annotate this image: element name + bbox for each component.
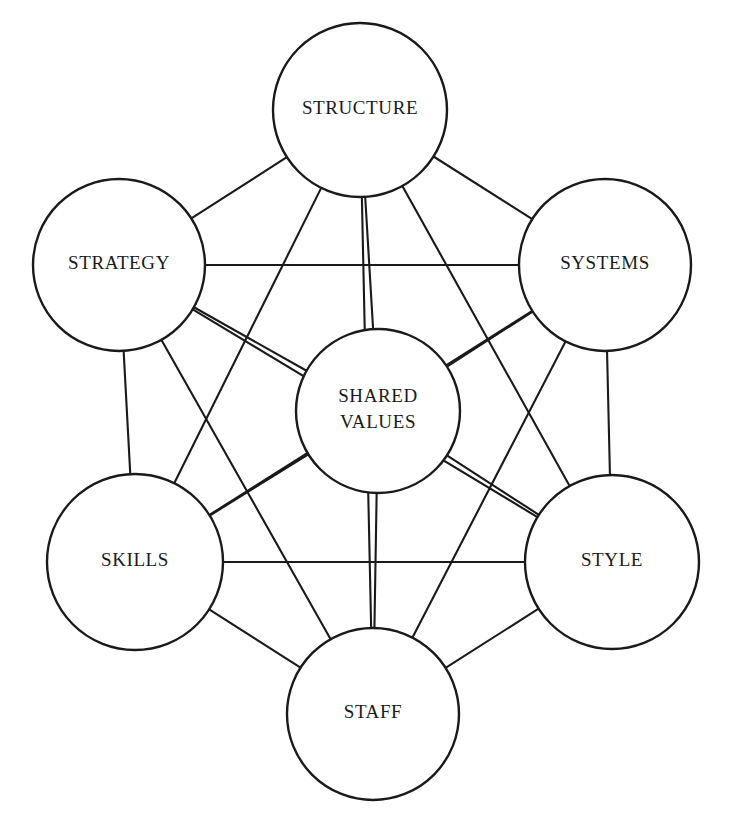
connector-strategy-to-skills [124, 351, 131, 474]
node-strategy[interactable]: STRATEGY [33, 179, 205, 351]
connector-structure-to-shared-values [365, 197, 373, 329]
label-staff: STAFF [344, 701, 403, 722]
node-structure[interactable]: STRUCTURE [273, 23, 447, 197]
label-shared-values-line-1: SHARED [338, 385, 418, 406]
node-staff[interactable]: STAFF [287, 628, 459, 800]
nodes-layer: STRUCTURESTRATEGYSYSTEMSSHAREDVALUESSKIL… [33, 23, 699, 800]
node-style[interactable]: STYLE [525, 475, 699, 649]
diagram-canvas: STRUCTURESTRATEGYSYSTEMSSHAREDVALUESSKIL… [0, 0, 734, 828]
label-shared-values-line-2: VALUES [340, 411, 416, 432]
connector-structure-to-systems [434, 157, 533, 220]
label-systems: SYSTEMS [560, 252, 650, 273]
label-structure: STRUCTURE [302, 97, 418, 118]
node-systems[interactable]: SYSTEMS [519, 179, 691, 351]
connector-style-to-staff [446, 609, 539, 668]
connector-skills-to-staff [209, 609, 300, 667]
seven-s-framework-diagram: STRUCTURESTRATEGYSYSTEMSSHAREDVALUESSKIL… [0, 0, 734, 828]
label-skills: SKILLS [101, 549, 169, 570]
node-skills[interactable]: SKILLS [47, 474, 223, 650]
connector-structure-to-strategy [191, 157, 286, 218]
connector-systems-to-style [607, 351, 610, 475]
connector-shared-values-to-staff [374, 493, 376, 628]
connector-shared-values-to-skills [210, 454, 309, 515]
label-strategy: STRATEGY [68, 252, 170, 273]
node-shared-values[interactable]: SHAREDVALUES [296, 329, 460, 493]
connector-strategy-to-shared-values [194, 307, 307, 371]
connector-shared-values-to-style [447, 455, 539, 514]
label-style: STYLE [581, 549, 643, 570]
